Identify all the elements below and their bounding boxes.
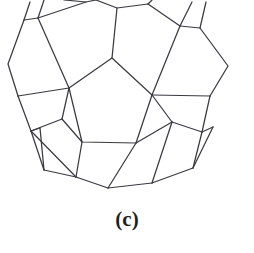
bond-top-right-edge [180, 2, 192, 26]
bond-left-silhouette-fold [31, 128, 40, 131]
figure-caption: (c) [0, 207, 254, 232]
figure-panel: (c) [0, 0, 254, 253]
bond-top-right-crop [148, 0, 152, 4]
fullerene-molecule-diagram [0, 0, 254, 215]
bond-top-far-right [200, 2, 206, 28]
